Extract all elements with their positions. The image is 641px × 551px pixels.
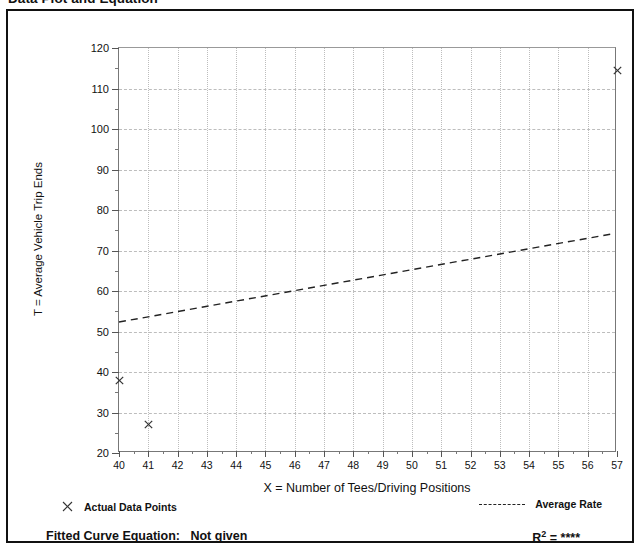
fitted-curve-equation-value: Not given <box>190 529 247 543</box>
x-tick-label: 54 <box>523 459 535 471</box>
x-tick <box>119 451 120 457</box>
legend-item-actual-data-points: Actual Data Points <box>62 498 177 516</box>
y-tick <box>112 48 119 49</box>
y-tick <box>112 413 119 414</box>
x-tick-minor <box>368 451 369 454</box>
x-tick-minor <box>485 451 486 454</box>
x-tick <box>558 451 559 457</box>
x-tick-label: 46 <box>289 459 301 471</box>
x-tick-minor <box>544 451 545 454</box>
x-tick <box>324 451 325 457</box>
plot-area: 404142434445464748495051525354555657 203… <box>118 47 616 452</box>
y-tick-label: 80 <box>97 204 109 216</box>
x-tick-label: 53 <box>494 459 506 471</box>
x-axis-title: X = Number of Tees/Driving Positions <box>118 481 616 495</box>
x-tick-label: 40 <box>113 459 125 471</box>
page-title: Data Plot and Equation <box>8 0 158 6</box>
x-tick-label: 56 <box>582 459 594 471</box>
chart-legend: Actual Data Points Average Rate <box>8 498 632 520</box>
x-tick <box>265 451 266 457</box>
x-tick <box>529 451 530 457</box>
y-tick-label: 30 <box>97 407 109 419</box>
x-tick-minor <box>427 451 428 454</box>
r-squared-value: R2 = **** <box>532 529 580 545</box>
y-tick <box>112 453 119 454</box>
fitted-curve-equation-label: Fitted Curve Equation: <box>46 529 180 543</box>
x-tick-label: 57 <box>611 459 623 471</box>
average-rate-trend-line <box>119 48 615 451</box>
x-tick-minor <box>573 451 574 454</box>
x-tick-minor <box>280 451 281 454</box>
x-tick <box>236 451 237 457</box>
x-tick-label: 49 <box>377 459 389 471</box>
y-tick-label: 60 <box>97 285 109 297</box>
x-tick-minor <box>514 451 515 454</box>
y-tick-label: 110 <box>91 83 109 95</box>
x-tick-minor <box>339 451 340 454</box>
x-tick-minor <box>397 451 398 454</box>
x-tick-label: 42 <box>172 459 184 471</box>
r-squared-label: R <box>532 531 541 545</box>
equation-row: Fitted Curve Equation: Not given R2 = **… <box>8 529 632 551</box>
x-tick <box>617 451 618 457</box>
x-tick <box>295 451 296 457</box>
r-squared-number: = **** <box>550 531 580 545</box>
x-tick <box>412 451 413 457</box>
x-tick <box>383 451 384 457</box>
x-tick-minor <box>251 451 252 454</box>
legend-label-actual-data-points: Actual Data Points <box>84 501 177 513</box>
x-tick <box>178 451 179 457</box>
legend-item-average-rate: Average Rate <box>479 498 602 510</box>
x-tick <box>588 451 589 457</box>
y-tick-label: 100 <box>91 123 109 135</box>
y-tick <box>112 89 119 90</box>
x-tick <box>207 451 208 457</box>
x-tick-minor <box>456 451 457 454</box>
x-tick <box>500 451 501 457</box>
x-tick <box>441 451 442 457</box>
y-tick <box>112 129 119 130</box>
data-point-marker <box>115 376 124 385</box>
figure-frame: 404142434445464748495051525354555657 203… <box>6 9 634 543</box>
y-tick-label: 20 <box>97 447 109 459</box>
x-tick <box>353 451 354 457</box>
y-tick-label: 90 <box>97 164 109 176</box>
fitted-curve-equation: Fitted Curve Equation: Not given <box>46 529 247 543</box>
data-point-marker <box>144 420 153 429</box>
y-tick <box>112 291 119 292</box>
x-tick-label: 48 <box>348 459 360 471</box>
data-point-marker <box>613 66 622 75</box>
x-tick-minor <box>134 451 135 454</box>
x-tick-minor <box>163 451 164 454</box>
y-tick-label: 70 <box>97 245 109 257</box>
dashed-line-icon <box>479 504 525 505</box>
y-tick-label: 50 <box>97 326 109 338</box>
y-tick-label: 40 <box>97 366 109 378</box>
y-tick-label: 120 <box>91 42 109 54</box>
y-axis-title: T = Average Vehicle Trip Ends <box>32 149 44 329</box>
x-tick <box>471 451 472 457</box>
x-tick-label: 51 <box>435 459 447 471</box>
x-tick-label: 44 <box>230 459 242 471</box>
y-tick <box>112 251 119 252</box>
x-tick-label: 41 <box>142 459 154 471</box>
x-tick-label: 52 <box>465 459 477 471</box>
x-tick-minor <box>192 451 193 454</box>
x-mark-icon <box>62 498 73 516</box>
x-tick-label: 47 <box>318 459 330 471</box>
y-tick <box>112 170 119 171</box>
y-tick <box>112 332 119 333</box>
r-squared-exponent: 2 <box>541 529 546 539</box>
x-tick-label: 43 <box>201 459 213 471</box>
x-tick-minor <box>602 451 603 454</box>
x-tick-minor <box>222 451 223 454</box>
legend-label-average-rate: Average Rate <box>535 498 602 510</box>
x-tick <box>148 451 149 457</box>
x-tick-label: 50 <box>406 459 418 471</box>
x-tick-label: 45 <box>260 459 272 471</box>
y-tick <box>112 210 119 211</box>
y-tick <box>112 372 119 373</box>
x-tick-label: 55 <box>553 459 565 471</box>
x-tick-minor <box>309 451 310 454</box>
